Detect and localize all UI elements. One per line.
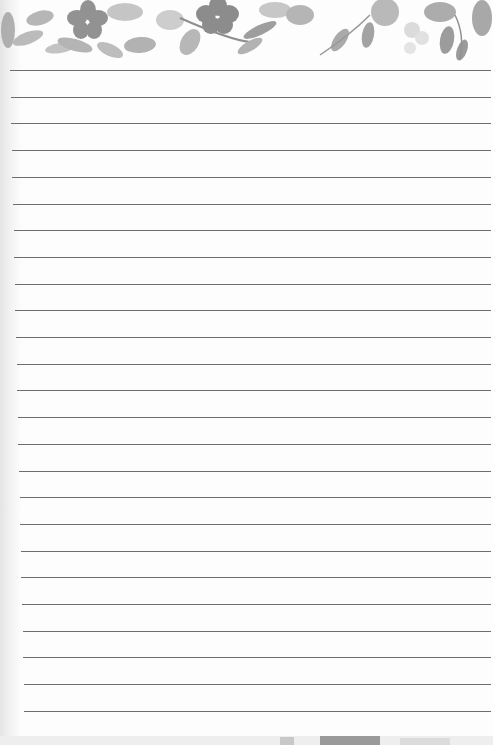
ruled-line (18, 444, 491, 445)
ruled-line (14, 257, 491, 258)
ruled-line (17, 390, 491, 391)
ruled-line (11, 97, 491, 98)
ruled-line (11, 123, 491, 124)
ruled-line (20, 524, 491, 525)
ruled-line (19, 471, 491, 472)
ruled-line (17, 364, 491, 365)
ruled-line (13, 204, 491, 205)
ruled-line (21, 577, 491, 578)
notepad-page (0, 0, 493, 745)
ruled-lines (0, 0, 493, 745)
ruled-line (10, 70, 491, 71)
ruled-line (12, 177, 491, 178)
bottom-edge-shadow (0, 736, 493, 745)
ruled-line (24, 711, 491, 712)
ruled-line (16, 337, 491, 338)
ruled-line (15, 284, 491, 285)
ruled-line (23, 631, 491, 632)
ruled-line (18, 417, 491, 418)
ruled-line (20, 497, 491, 498)
ruled-line (21, 551, 491, 552)
ruled-line (24, 684, 491, 685)
ruled-line (23, 657, 491, 658)
ruled-line (22, 604, 491, 605)
ruled-line (14, 230, 491, 231)
ruled-line (12, 150, 491, 151)
ruled-line (15, 310, 491, 311)
